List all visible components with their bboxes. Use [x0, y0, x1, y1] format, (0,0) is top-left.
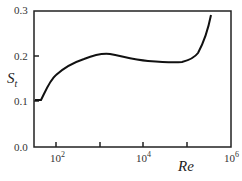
- x-axis-title: Re: [178, 158, 194, 175]
- y-axis-title: St: [7, 70, 17, 89]
- y-tick-label: 0.3: [14, 4, 28, 16]
- y-tick-label: 0.2: [14, 50, 28, 62]
- y-tick-label: 0.0: [14, 141, 28, 153]
- y-tick-label: 0.1: [14, 95, 28, 107]
- x-tick-label: 104: [136, 150, 151, 164]
- chart-plot: [0, 0, 242, 181]
- data-line: [35, 15, 211, 100]
- plot-frame: [34, 11, 231, 147]
- x-tick-label: 102: [50, 150, 65, 164]
- x-tick-label: 106: [224, 150, 239, 164]
